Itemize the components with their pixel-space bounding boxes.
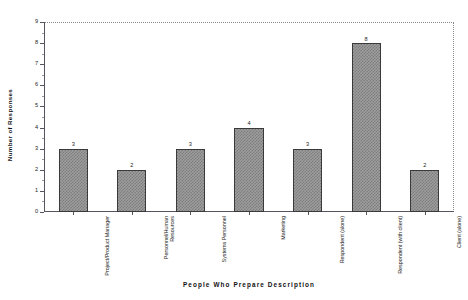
y-axis-minor-tick <box>42 138 44 139</box>
bar: 2 <box>410 170 439 212</box>
y-axis-tick <box>40 170 44 171</box>
plot-frame-right <box>453 22 454 212</box>
y-axis-tick <box>40 191 44 192</box>
y-axis-tick <box>40 22 44 23</box>
bar-value-label: 4 <box>247 121 250 127</box>
y-axis-minor-tick <box>42 75 44 76</box>
y-axis-tick <box>40 149 44 150</box>
y-axis-spine <box>44 22 45 212</box>
bar-value-label: 3 <box>72 142 75 148</box>
y-axis-tick <box>40 43 44 44</box>
bar-value-label: 3 <box>306 142 309 148</box>
y-axis-minor-tick <box>42 201 44 202</box>
x-axis-category-label: Systems Personnel <box>221 216 227 278</box>
y-axis-tick-label: 4 <box>35 125 38 131</box>
x-axis-category-label: Respondent (alone) <box>339 216 345 278</box>
y-axis-tick <box>40 64 44 65</box>
y-axis-tick <box>40 106 44 107</box>
x-axis-tick <box>308 212 309 215</box>
y-axis-minor-tick <box>42 33 44 34</box>
y-axis-tick-label: 2 <box>35 167 38 173</box>
x-axis-tick <box>366 212 367 215</box>
bar-chart: Number of Responses 0123456789 3234382 P… <box>0 0 468 300</box>
x-axis-category-label: Respondent (with client) <box>397 216 403 278</box>
x-axis-category-label: Marketing <box>280 216 286 278</box>
bar: 3 <box>293 149 322 212</box>
y-axis-minor-tick <box>42 54 44 55</box>
bar-value-label: 2 <box>130 163 133 169</box>
y-axis-tick <box>40 128 44 129</box>
y-axis-minor-tick <box>42 117 44 118</box>
bar: 3 <box>176 149 205 212</box>
x-axis-tick <box>249 212 250 215</box>
y-axis-tick-label: 9 <box>35 19 38 25</box>
y-axis-tick-label: 0 <box>35 209 38 215</box>
y-axis-minor-tick <box>42 96 44 97</box>
bar: 8 <box>352 43 381 212</box>
bar-value-label: 2 <box>423 163 426 169</box>
y-axis-tick-label: 1 <box>35 188 38 194</box>
x-axis-category-label: Project/Product Manager <box>104 216 110 278</box>
bar: 4 <box>234 128 263 212</box>
y-axis-tick <box>40 85 44 86</box>
y-axis-minor-tick <box>42 159 44 160</box>
x-axis-title: People Who Prepare Description <box>44 281 454 288</box>
y-axis-tick-label: 3 <box>35 146 38 152</box>
x-axis-tick <box>425 212 426 215</box>
y-axis-tick-label: 8 <box>35 40 38 46</box>
y-axis-minor-tick <box>42 180 44 181</box>
y-axis-title: Number of Responses <box>6 70 13 180</box>
y-axis-tick-label: 7 <box>35 61 38 67</box>
bar: 3 <box>59 149 88 212</box>
x-axis-tick <box>190 212 191 215</box>
y-axis-tick-label: 5 <box>35 104 38 110</box>
x-axis-category-label: Client (alone) <box>456 216 462 278</box>
bar-value-label: 3 <box>189 142 192 148</box>
y-axis-tick <box>40 212 44 213</box>
x-axis-tick <box>73 212 74 215</box>
x-axis-tick <box>132 212 133 215</box>
bar-value-label: 8 <box>365 37 368 43</box>
bar: 2 <box>117 170 146 212</box>
plot-area: 0123456789 3234382 <box>44 22 454 212</box>
x-axis-category-label: Personnel/Human Resources <box>163 216 176 278</box>
y-axis-tick-label: 6 <box>35 83 38 89</box>
plot-frame-top <box>44 22 454 23</box>
